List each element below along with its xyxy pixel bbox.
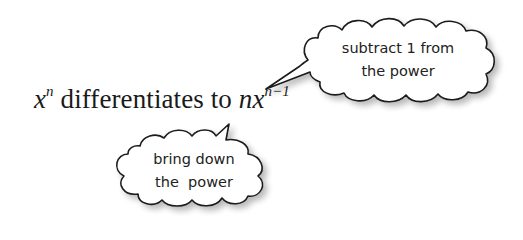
- top-callout-line-2: the power: [318, 60, 478, 83]
- bottom-callout-text: bring down the power: [132, 148, 256, 194]
- bottom-callout-line-1: bring down: [132, 148, 256, 171]
- base-exponent: n: [46, 83, 54, 99]
- rule-text: differentiates to: [54, 84, 239, 114]
- coefficient: n: [239, 84, 253, 114]
- differentiation-rule: xn differentiates to nxn−1: [34, 84, 290, 115]
- base-variable: x: [34, 84, 46, 114]
- top-callout-line-1: subtract 1 from: [318, 37, 478, 60]
- result-exponent: n−1: [265, 83, 290, 99]
- bottom-callout-line-2: the power: [132, 171, 256, 194]
- top-callout-text: subtract 1 from the power: [318, 37, 478, 83]
- result-variable: x: [252, 84, 264, 114]
